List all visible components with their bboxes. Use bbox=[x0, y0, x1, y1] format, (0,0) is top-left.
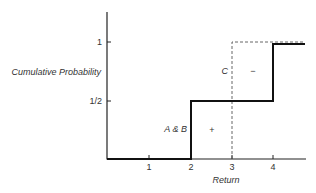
plus-annotation: + bbox=[209, 125, 214, 135]
xtick-label-4: 4 bbox=[270, 162, 275, 172]
xtick-label-3: 3 bbox=[229, 162, 234, 172]
ytick-label-half: 1/2 bbox=[89, 96, 102, 106]
xtick-label-2: 2 bbox=[188, 162, 193, 172]
cdf-chart: 1 1/2 1 2 3 4 Cumulative Probability Ret… bbox=[0, 0, 316, 193]
ytick-label-1: 1 bbox=[97, 37, 102, 47]
series-ab-line bbox=[107, 44, 305, 159]
xtick-label-1: 1 bbox=[146, 162, 151, 172]
series-ab-label: A & B bbox=[163, 124, 187, 134]
minus-annotation: − bbox=[250, 66, 255, 76]
series-c-label: C bbox=[222, 66, 229, 76]
y-axis-title: Cumulative Probability bbox=[11, 67, 101, 77]
x-axis-title: Return bbox=[212, 175, 239, 185]
